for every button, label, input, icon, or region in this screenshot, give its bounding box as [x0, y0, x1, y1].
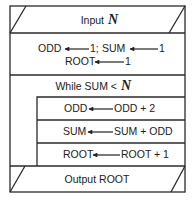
output-block: Output ROOT: [10, 166, 185, 192]
input-block: Input N: [10, 6, 185, 33]
init-root-target: ROOT: [65, 55, 96, 67]
while-header: While SUM < N: [55, 78, 132, 93]
step-expression: SUM + ODD: [114, 125, 173, 137]
while-condition-label: While SUM <: [55, 80, 117, 92]
loop-step-sum: SUM SUM + ODD: [63, 125, 173, 137]
step-target: ODD: [64, 102, 88, 114]
init-sum-value: 1: [159, 42, 165, 54]
init-root-value: 1: [125, 55, 131, 67]
step-expression: ODD + 2: [114, 102, 155, 114]
step-expression: ROOT + 1: [121, 148, 169, 160]
outer-frame: [10, 6, 185, 192]
input-label: Input: [81, 14, 104, 26]
output-right-slant: [171, 166, 185, 192]
output-left-slant: [10, 166, 25, 192]
init-block: ODD 1; SUM 1 ROOT 1: [10, 42, 185, 75]
while-condition-variable: N: [120, 78, 132, 93]
loop-body: ODD ODD + 2 SUM SUM + ODD ROOT ROOT + 1: [10, 97, 185, 166]
step-target: SUM: [63, 125, 86, 137]
init-odd-target: ODD: [38, 42, 62, 54]
input-right-slant: [169, 6, 185, 33]
input-variable: N: [107, 12, 119, 27]
input-left-slant: [10, 6, 26, 33]
step-target: ROOT: [63, 148, 94, 160]
loop-step-odd: ODD ODD + 2: [64, 102, 155, 114]
init-sum-target: SUM: [102, 42, 125, 54]
output-label: Output ROOT: [65, 173, 130, 185]
loop-step-root: ROOT ROOT + 1: [63, 148, 169, 160]
init-odd-value: 1;: [90, 42, 99, 54]
flowchart-diagram: Input N ODD 1; SUM 1 ROOT 1 While SUM < …: [0, 0, 195, 202]
